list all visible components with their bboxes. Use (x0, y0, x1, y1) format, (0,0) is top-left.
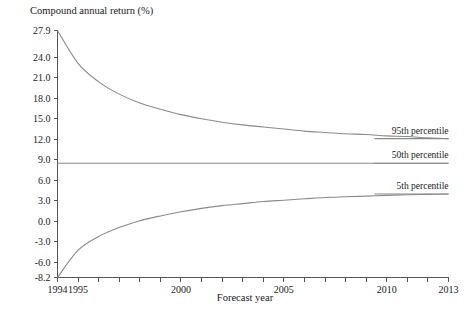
axis-titles: Compound annual return (%) Forecast year (30, 5, 274, 303)
x-tick-label: 1995 (68, 284, 88, 295)
y-tick-label: -8.2 (35, 272, 51, 283)
series-label: 5th percentile (397, 181, 449, 191)
y-tick-label: 12.0 (33, 134, 51, 145)
y-tick-label: 3.0 (38, 195, 51, 206)
y-axis-title: Compound annual return (%) (30, 5, 154, 17)
series-line (58, 194, 449, 277)
y-tick-label: 9.0 (38, 154, 51, 165)
series-lines (58, 31, 449, 278)
y-tick-label: 27.9 (33, 25, 51, 36)
series-label: 95th percentile (392, 126, 449, 136)
y-tick-label: 15.0 (33, 113, 51, 124)
x-tick-label: 2013 (439, 284, 459, 295)
y-tick-label: -3.0 (35, 236, 51, 247)
y-tick-label: 24.0 (33, 52, 51, 63)
y-tick-label: 0.0 (38, 216, 51, 227)
chart-container: Compound annual return (%) Forecast year… (0, 0, 470, 318)
x-tick-label: 2000 (171, 284, 191, 295)
y-axis: 27.924.021.018.015.012.09.06.03.00.0-3.0… (33, 25, 58, 283)
x-axis-title: Forecast year (217, 292, 274, 303)
y-tick-label: -6.0 (35, 257, 51, 268)
series-line (58, 31, 449, 139)
y-tick-label: 6.0 (38, 175, 51, 186)
x-tick-label: 2010 (377, 284, 397, 295)
y-tick-label: 21.0 (33, 72, 51, 83)
series-label: 50th percentile (392, 150, 449, 160)
compound-annual-return-chart: Compound annual return (%) Forecast year… (0, 0, 470, 318)
x-tick-label: 1994 (48, 284, 68, 295)
x-tick-label: 2005 (274, 284, 294, 295)
y-tick-label: 18.0 (33, 93, 51, 104)
